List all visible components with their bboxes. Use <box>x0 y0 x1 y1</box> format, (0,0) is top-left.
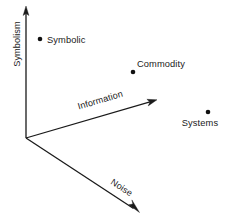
data-point-dot <box>38 37 43 42</box>
data-point-symbolic: Symbolic <box>38 35 86 45</box>
diagram-canvas: Symbolism Information Noise Symbolic <box>0 0 228 221</box>
data-point-label: Symbolic <box>47 35 86 45</box>
noise-axis: Noise <box>26 138 140 213</box>
information-axis-label: Information <box>76 89 124 112</box>
data-point-dot <box>131 70 136 75</box>
noise-axis-line <box>26 138 134 209</box>
data-point-label: Systems <box>182 118 219 128</box>
data-point-label: Commodity <box>137 59 185 69</box>
symbolism-axis-label: Symbolism <box>12 21 22 66</box>
noise-axis-arrowhead <box>129 200 140 213</box>
data-points-group: Symbolic Commodity Systems <box>38 35 219 129</box>
data-point-commodity: Commodity <box>131 59 185 74</box>
data-point-dot <box>206 110 211 115</box>
symbolism-axis: Symbolism <box>12 6 29 138</box>
information-axis: Information <box>26 89 157 138</box>
three-axis-scatter-diagram: Symbolism Information Noise Symbolic <box>0 0 228 221</box>
data-point-systems: Systems <box>182 110 219 128</box>
